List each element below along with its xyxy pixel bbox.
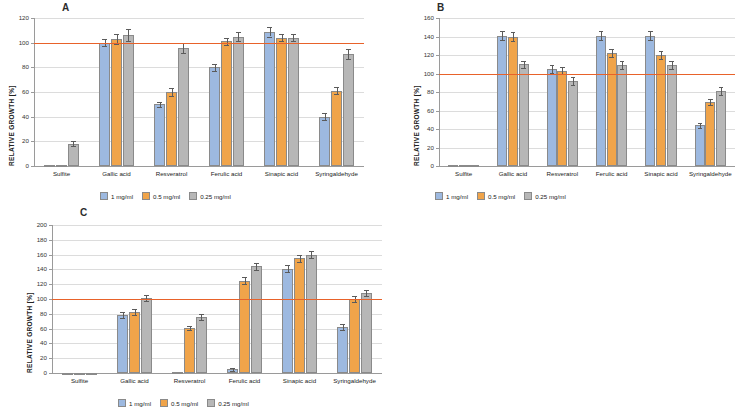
- bar: [667, 65, 677, 166]
- chart-panel-a: A020406080100120RELATIVE GROWTH [%]Sulfi…: [0, 2, 390, 202]
- legend-label: 1 mg/ml: [446, 193, 468, 200]
- bar: [497, 36, 507, 166]
- y-axis-title: RELATIVE GROWTH [%]: [8, 85, 15, 166]
- chart-legend: 1 mg/ml0.5 mg/ml0.25 mg/ml: [118, 399, 249, 407]
- chart-legend: 1 mg/ml0.5 mg/ml0.25 mg/ml: [435, 192, 566, 200]
- plot-area: [34, 18, 364, 166]
- error-bar-cap: [346, 49, 350, 50]
- error-bar-cap: [169, 96, 173, 97]
- legend-item: 0.25 mg/ml: [207, 399, 249, 407]
- bar: [172, 372, 183, 374]
- legend-swatch: [207, 399, 215, 407]
- gridline: [34, 117, 364, 118]
- error-bar-cap: [659, 51, 663, 52]
- legend-item: 1 mg/ml: [435, 192, 468, 200]
- error-bar-cap: [322, 120, 326, 121]
- bar: [184, 328, 195, 373]
- gridline: [439, 129, 735, 130]
- error-bar-cap: [659, 59, 663, 60]
- bar: [276, 38, 287, 166]
- x-axis: [439, 166, 735, 167]
- y-axis-tick-label: 140: [415, 33, 434, 40]
- bar: [306, 255, 317, 373]
- error-bar-cap: [144, 295, 148, 296]
- bar: [209, 67, 220, 166]
- y-axis-title: RELATIVE GROWTH [%]: [26, 292, 33, 373]
- bar: [331, 91, 342, 166]
- gridline: [34, 67, 364, 68]
- bar: [459, 165, 469, 167]
- error-bar-cap: [242, 284, 246, 285]
- error-bar: [573, 77, 574, 84]
- bar: [196, 317, 207, 373]
- bar: [166, 92, 177, 166]
- error-bar-cap: [267, 27, 271, 28]
- error-bar-cap: [364, 296, 368, 297]
- error-bar-cap: [71, 141, 75, 142]
- error-bar-cap: [199, 320, 203, 321]
- error-bar-cap: [291, 34, 295, 35]
- error-bar: [513, 32, 514, 41]
- gridline: [52, 240, 382, 241]
- gridline: [52, 358, 382, 359]
- y-axis-tick-label: 80: [10, 63, 29, 70]
- error-bar-cap: [521, 61, 525, 62]
- bar: [645, 36, 655, 166]
- error-bar: [245, 277, 246, 284]
- legend-label: 0.25 mg/ml: [200, 193, 231, 200]
- error-bar: [227, 38, 228, 45]
- bar: [117, 315, 128, 373]
- legend-label: 0.25 mg/ml: [535, 193, 566, 200]
- legend-label: 0.25 mg/ml: [218, 400, 249, 407]
- bar: [288, 38, 299, 166]
- bar: [596, 36, 606, 166]
- bar: [233, 37, 244, 167]
- bar: [74, 373, 85, 375]
- error-bar-cap: [599, 31, 603, 32]
- error-bar: [215, 64, 216, 71]
- bar: [99, 43, 110, 166]
- error-bar-cap: [708, 99, 712, 100]
- error-bar: [128, 29, 129, 41]
- error-bar: [348, 49, 349, 59]
- error-bar: [612, 49, 613, 56]
- error-bar-cap: [102, 46, 106, 47]
- error-bar-cap: [132, 315, 136, 316]
- error-bar: [293, 34, 294, 41]
- chart-legend: 1 mg/ml0.5 mg/ml0.25 mg/ml: [100, 192, 231, 200]
- error-bar: [622, 61, 623, 68]
- error-bar-cap: [181, 53, 185, 54]
- y-axis-tick-label: 120: [415, 51, 434, 58]
- gridline: [439, 55, 735, 56]
- error-bar: [282, 34, 283, 41]
- legend-label: 0.5 mg/ml: [171, 400, 198, 407]
- error-bar: [256, 263, 257, 270]
- gridline: [52, 255, 382, 256]
- y-axis-tick-label: 120: [28, 280, 47, 287]
- error-bar-cap: [698, 123, 702, 124]
- legend-swatch: [118, 399, 126, 407]
- error-bar-cap: [309, 251, 313, 252]
- error-bar-cap: [309, 258, 313, 259]
- error-bar-cap: [126, 29, 130, 30]
- y-axis-tick-label: 140: [28, 265, 47, 272]
- y-axis-title: RELATIVE GROWTH [%]: [413, 85, 420, 166]
- bar: [337, 327, 348, 373]
- error-bar-cap: [560, 67, 564, 68]
- error-bar: [300, 255, 301, 262]
- error-bar-cap: [212, 71, 216, 72]
- error-bar-cap: [157, 102, 161, 103]
- error-bar-cap: [120, 318, 124, 319]
- bar: [617, 65, 627, 166]
- error-bar-cap: [267, 37, 271, 38]
- error-bar-cap: [648, 40, 652, 41]
- gridline: [34, 18, 364, 19]
- bar: [557, 71, 567, 166]
- bar: [86, 373, 97, 375]
- error-bar-cap: [571, 85, 575, 86]
- y-axis-tick-label: 120: [10, 14, 29, 21]
- gridline: [439, 111, 735, 112]
- y-axis-tick-label: 180: [28, 236, 47, 243]
- bar: [508, 37, 518, 167]
- error-bar-cap: [236, 32, 240, 33]
